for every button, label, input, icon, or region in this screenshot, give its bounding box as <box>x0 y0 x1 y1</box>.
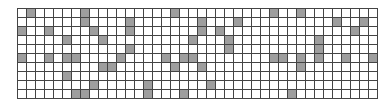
grid-cell-empty[interactable] <box>333 63 342 72</box>
grid-cell-empty[interactable] <box>36 63 45 72</box>
grid-cell-empty[interactable] <box>243 27 252 36</box>
grid-cell-empty[interactable] <box>234 54 243 63</box>
grid-cell-filled[interactable] <box>189 36 198 45</box>
grid-cell-empty[interactable] <box>270 27 279 36</box>
grid-cell-empty[interactable] <box>180 27 189 36</box>
grid-cell-empty[interactable] <box>27 27 36 36</box>
grid-cell-empty[interactable] <box>144 9 153 18</box>
grid-cell-empty[interactable] <box>225 81 234 90</box>
grid-cell-empty[interactable] <box>297 81 306 90</box>
grid-cell-empty[interactable] <box>243 9 252 18</box>
grid-cell-empty[interactable] <box>234 9 243 18</box>
grid-cell-empty[interactable] <box>288 45 297 54</box>
grid-cell-empty[interactable] <box>369 81 378 90</box>
grid-cell-empty[interactable] <box>117 36 126 45</box>
grid-cell-filled[interactable] <box>72 90 81 99</box>
grid-cell-empty[interactable] <box>135 81 144 90</box>
grid-cell-empty[interactable] <box>180 63 189 72</box>
grid-cell-empty[interactable] <box>54 63 63 72</box>
grid-cell-empty[interactable] <box>63 81 72 90</box>
grid-cell-filled[interactable] <box>63 72 72 81</box>
grid-cell-empty[interactable] <box>360 63 369 72</box>
grid-cell-empty[interactable] <box>216 54 225 63</box>
grid-cell-empty[interactable] <box>126 36 135 45</box>
grid-cell-empty[interactable] <box>279 90 288 99</box>
grid-cell-empty[interactable] <box>108 18 117 27</box>
grid-cell-filled[interactable] <box>63 54 72 63</box>
grid-cell-empty[interactable] <box>27 54 36 63</box>
grid-cell-empty[interactable] <box>333 90 342 99</box>
grid-cell-filled[interactable] <box>297 54 306 63</box>
grid-cell-empty[interactable] <box>162 18 171 27</box>
grid-cell-empty[interactable] <box>126 54 135 63</box>
grid-cell-empty[interactable] <box>261 90 270 99</box>
grid-cell-filled[interactable] <box>369 54 378 63</box>
grid-cell-empty[interactable] <box>288 27 297 36</box>
grid-cell-empty[interactable] <box>45 72 54 81</box>
grid-cell-empty[interactable] <box>243 54 252 63</box>
grid-cell-empty[interactable] <box>90 9 99 18</box>
grid-cell-empty[interactable] <box>351 9 360 18</box>
grid-cell-empty[interactable] <box>72 27 81 36</box>
grid-cell-empty[interactable] <box>27 81 36 90</box>
grid-cell-filled[interactable] <box>198 18 207 27</box>
grid-cell-empty[interactable] <box>108 27 117 36</box>
grid-cell-empty[interactable] <box>126 90 135 99</box>
grid-cell-empty[interactable] <box>135 45 144 54</box>
grid-cell-filled[interactable] <box>99 63 108 72</box>
grid-cell-empty[interactable] <box>342 27 351 36</box>
grid-cell-empty[interactable] <box>153 18 162 27</box>
grid-cell-empty[interactable] <box>306 90 315 99</box>
grid-cell-empty[interactable] <box>288 81 297 90</box>
grid-cell-empty[interactable] <box>162 72 171 81</box>
grid-cell-empty[interactable] <box>180 81 189 90</box>
grid-cell-empty[interactable] <box>162 90 171 99</box>
grid-cell-empty[interactable] <box>225 90 234 99</box>
grid-cell-empty[interactable] <box>261 45 270 54</box>
grid-cell-empty[interactable] <box>99 54 108 63</box>
grid-cell-filled[interactable] <box>171 9 180 18</box>
grid-cell-empty[interactable] <box>18 90 27 99</box>
grid-cell-filled[interactable] <box>225 36 234 45</box>
grid-cell-empty[interactable] <box>189 63 198 72</box>
grid-cell-empty[interactable] <box>189 9 198 18</box>
grid-cell-empty[interactable] <box>189 27 198 36</box>
grid-cell-empty[interactable] <box>126 9 135 18</box>
grid-cell-empty[interactable] <box>171 18 180 27</box>
grid-cell-empty[interactable] <box>252 63 261 72</box>
grid-cell-empty[interactable] <box>45 36 54 45</box>
grid-cell-empty[interactable] <box>252 27 261 36</box>
grid-cell-empty[interactable] <box>180 18 189 27</box>
grid-cell-empty[interactable] <box>162 9 171 18</box>
grid-cell-empty[interactable] <box>18 63 27 72</box>
grid-cell-empty[interactable] <box>315 63 324 72</box>
grid-cell-empty[interactable] <box>369 72 378 81</box>
grid-cell-empty[interactable] <box>54 45 63 54</box>
grid-cell-empty[interactable] <box>81 63 90 72</box>
grid-cell-empty[interactable] <box>234 27 243 36</box>
grid-cell-empty[interactable] <box>261 9 270 18</box>
grid-cell-empty[interactable] <box>117 63 126 72</box>
grid-cell-filled[interactable] <box>279 54 288 63</box>
grid-cell-filled[interactable] <box>180 90 189 99</box>
grid-cell-empty[interactable] <box>315 90 324 99</box>
grid-cell-empty[interactable] <box>342 63 351 72</box>
grid-cell-empty[interactable] <box>306 9 315 18</box>
grid-cell-empty[interactable] <box>198 45 207 54</box>
grid-cell-filled[interactable] <box>234 18 243 27</box>
grid-cell-empty[interactable] <box>288 63 297 72</box>
grid-cell-empty[interactable] <box>351 18 360 27</box>
grid-cell-empty[interactable] <box>297 36 306 45</box>
grid-cell-empty[interactable] <box>153 45 162 54</box>
grid-cell-empty[interactable] <box>135 9 144 18</box>
grid-cell-empty[interactable] <box>243 72 252 81</box>
grid-cell-empty[interactable] <box>18 81 27 90</box>
grid-cell-empty[interactable] <box>279 18 288 27</box>
grid-cell-empty[interactable] <box>198 81 207 90</box>
grid-cell-empty[interactable] <box>252 81 261 90</box>
grid-cell-empty[interactable] <box>270 81 279 90</box>
grid-cell-empty[interactable] <box>351 63 360 72</box>
grid-cell-empty[interactable] <box>198 54 207 63</box>
grid-cell-empty[interactable] <box>216 63 225 72</box>
grid-cell-filled[interactable] <box>180 54 189 63</box>
